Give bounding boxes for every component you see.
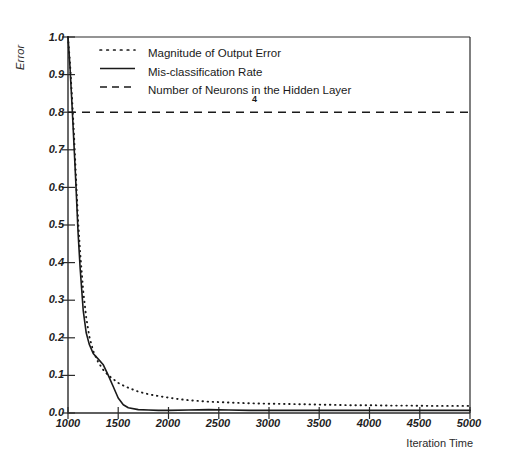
y-axis-label: Error (14, 10, 26, 70)
legend-label-output-error: Magnitude of Output Error (148, 44, 351, 63)
chart-figure: Error Iteration Time 1.0 0.9 0.8 0.7 0.6… (0, 0, 505, 471)
y-tick-label: 0.4 (30, 256, 64, 268)
y-tick-label: 0.7 (30, 143, 64, 155)
x-tick-label: 1500 (95, 417, 141, 429)
x-tick-label: 2000 (145, 417, 191, 429)
y-tick-label: 0.1 (30, 368, 64, 380)
chart-legend: Magnitude of Output Error Mis-classifica… (148, 44, 351, 100)
y-tick-label: 1.0 (30, 31, 64, 43)
y-tick-label: 0.8 (30, 106, 64, 118)
x-tick-label: 2500 (195, 417, 241, 429)
y-tick-label: 0.3 (30, 293, 64, 305)
x-axis-label: Iteration Time (406, 437, 473, 449)
x-tick-label: 5000 (446, 417, 492, 429)
y-tick-label: 0.6 (30, 181, 64, 193)
x-tick-label: 4000 (346, 417, 392, 429)
x-tick-label: 4500 (396, 417, 442, 429)
x-tick-label: 3000 (245, 417, 291, 429)
legend-label-hidden-neurons: Number of Neurons in the Hidden Layer (148, 81, 351, 100)
neuron-count-annotation: 4 (252, 94, 257, 104)
x-tick-label: 3500 (296, 417, 342, 429)
y-tick-label: 0.9 (30, 68, 64, 80)
y-tick-label: 0.5 (30, 218, 64, 230)
x-tick-label: 1000 (45, 417, 91, 429)
legend-label-misclass-rate: Mis-classification Rate (148, 63, 351, 82)
y-tick-label: 0.2 (30, 331, 64, 343)
